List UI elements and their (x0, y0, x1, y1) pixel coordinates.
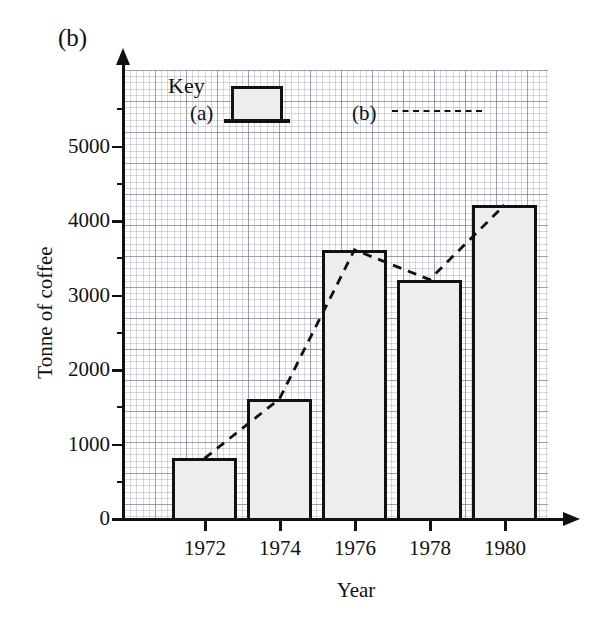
y-axis-title: Tonne of coffee (33, 198, 58, 428)
y-tick-minor (117, 257, 124, 259)
x-axis-arrow-icon (563, 512, 580, 526)
y-tick-0 (112, 518, 124, 521)
x-axis-title: Year (296, 578, 416, 603)
y-tick-label-0: 0 (0, 506, 110, 531)
bar-base-1980 (468, 518, 541, 521)
x-tick-1978 (429, 519, 432, 531)
bar-1980 (472, 205, 537, 518)
bar-base-1974 (243, 518, 316, 521)
bar-base-1972 (168, 518, 241, 521)
key-series-b-label: (b) (352, 101, 377, 126)
y-tick-minor (117, 481, 124, 483)
y-tick-1000 (112, 444, 124, 447)
bar-1974 (247, 399, 312, 518)
bar-base-1976 (318, 518, 391, 521)
y-tick-label-1000: 1000 (0, 432, 110, 457)
key-series-a-swatch (231, 86, 283, 119)
y-tick-minor (117, 406, 124, 408)
y-tick-minor (117, 183, 124, 185)
panel-label: (b) (58, 25, 87, 50)
key-series-a-swatch-base (224, 119, 290, 123)
y-axis-line (122, 62, 125, 521)
y-axis-arrow-icon (116, 48, 130, 65)
bar-base-1978 (393, 518, 466, 521)
y-tick-5000 (112, 146, 124, 149)
x-tick-1972 (204, 519, 207, 531)
y-tick-minor (117, 108, 124, 110)
chart-figure: (b) 0 1000 2000 3000 4000 5000 1972 1974… (0, 0, 608, 619)
y-tick-minor (117, 332, 124, 334)
x-tick-label-1980: 1980 (460, 536, 550, 561)
y-tick-3000 (112, 295, 124, 298)
key-series-a-label: (a) (190, 101, 213, 126)
bar-1976 (322, 250, 387, 518)
bar-1978 (397, 280, 462, 518)
x-tick-1976 (354, 519, 357, 531)
key-title: Key (168, 73, 205, 99)
x-tick-1980 (504, 519, 507, 531)
key-series-b-line (392, 110, 482, 112)
y-tick-4000 (112, 220, 124, 223)
y-tick-2000 (112, 369, 124, 372)
x-tick-1974 (279, 519, 282, 531)
bar-1972 (172, 458, 237, 518)
y-tick-label-5000: 5000 (0, 134, 110, 159)
